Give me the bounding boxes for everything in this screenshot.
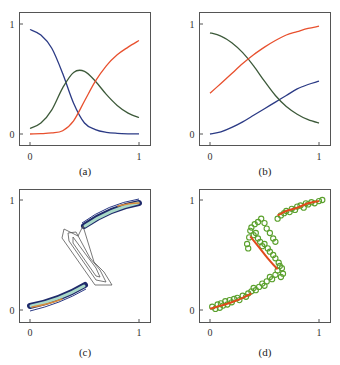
y-tick-label-1: 1 — [190, 19, 195, 30]
series-line-blue — [210, 81, 319, 134]
x-tick-label-1: 1 — [317, 327, 322, 338]
fit-line-segment — [278, 201, 319, 215]
y-tick-label-0: 0 — [10, 129, 15, 140]
contour-plot — [30, 199, 139, 311]
series-line-red — [30, 41, 139, 135]
plot-lines — [30, 30, 139, 135]
fit-lines — [210, 201, 319, 309]
figure: 1 0 0 1 (a) 1 0 0 1 (b) 1 0 0 1 (c) — [0, 0, 340, 365]
panel-caption: (b) — [259, 165, 272, 178]
x-tick-label-1: 1 — [137, 327, 142, 338]
series-line-green — [30, 70, 139, 128]
scatter-point — [257, 284, 262, 289]
x-tick-label-1: 1 — [137, 151, 142, 162]
panel-d: 1 0 0 1 (d) — [190, 190, 331, 360]
y-tick-label-1: 1 — [10, 19, 15, 30]
panel-caption: (d) — [259, 346, 272, 359]
scatter-point — [267, 230, 272, 235]
y-tick-label-0: 0 — [190, 305, 195, 316]
scatter-point — [248, 228, 253, 233]
series-line-red — [210, 26, 319, 93]
panel-b: 1 0 0 1 (b) — [190, 13, 331, 179]
panel-caption: (a) — [79, 165, 92, 178]
y-tick-label-0: 0 — [10, 305, 15, 316]
y-tick-label-1: 1 — [190, 195, 195, 206]
scatter-point — [320, 197, 325, 202]
panel-caption: (c) — [79, 346, 92, 359]
y-tick-label-1: 1 — [10, 195, 15, 206]
y-tick-label-0: 0 — [190, 129, 195, 140]
scatter-points — [210, 197, 325, 311]
axes-frame — [20, 13, 151, 146]
x-tick-label-0: 0 — [28, 151, 33, 162]
axes-frame — [200, 13, 331, 146]
fit-line-segment — [210, 294, 251, 309]
x-tick-label-0: 0 — [28, 327, 33, 338]
panel-a: 1 0 0 1 (a) — [10, 13, 151, 179]
scatter-point — [262, 221, 267, 226]
x-tick-label-1: 1 — [317, 151, 322, 162]
panel-c: 1 0 0 1 (c) — [10, 190, 151, 360]
plot-lines — [210, 26, 319, 134]
x-tick-label-0: 0 — [208, 327, 213, 338]
x-tick-label-0: 0 — [208, 151, 213, 162]
